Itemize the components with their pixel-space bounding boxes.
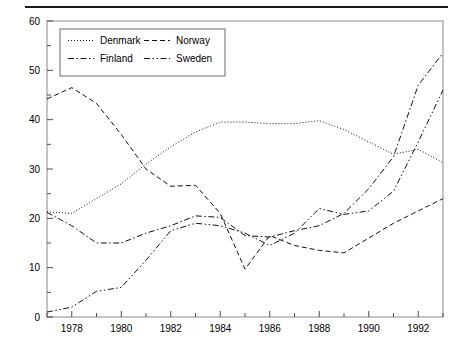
y-tick-label: 10 xyxy=(29,262,41,273)
y-tick-label: 30 xyxy=(29,164,41,175)
y-tick-label: 20 xyxy=(29,213,41,224)
series-line-finland xyxy=(47,53,443,243)
x-tick-label: 1982 xyxy=(160,323,183,334)
x-tick-label: 1980 xyxy=(110,323,133,334)
legend-label-finland: Finland xyxy=(100,53,133,64)
y-tick-label: 40 xyxy=(29,114,41,125)
series-line-denmark xyxy=(47,121,443,214)
x-tick-label: 1988 xyxy=(308,323,331,334)
x-tick-label: 1990 xyxy=(358,323,381,334)
line-chart: 0102030405060197819801982198419861988199… xyxy=(0,0,464,360)
x-tick-label: 1992 xyxy=(407,323,430,334)
y-tick-label: 60 xyxy=(29,16,41,27)
x-tick-label: 1986 xyxy=(259,323,282,334)
x-tick-label: 1978 xyxy=(61,323,84,334)
legend-label-norway: Norway xyxy=(176,35,210,46)
y-tick-label: 50 xyxy=(29,65,41,76)
x-tick-label: 1984 xyxy=(209,323,232,334)
legend-label-sweden: Sweden xyxy=(176,53,212,64)
legend-label-denmark: Denmark xyxy=(100,35,142,46)
series-line-norway xyxy=(47,88,443,270)
series-line-sweden xyxy=(47,90,443,312)
y-tick-label: 0 xyxy=(34,312,40,323)
figure: 0102030405060197819801982198419861988199… xyxy=(0,0,464,360)
